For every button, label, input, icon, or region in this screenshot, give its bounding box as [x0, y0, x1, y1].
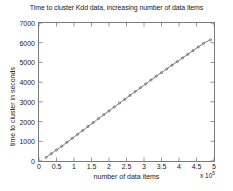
plot-area — [38, 22, 215, 162]
x-tick-label: 0.5 — [52, 163, 62, 170]
x-tick-label: 1 — [72, 163, 76, 170]
y-axis-tick-labels: 01000200030004000500060007000 — [0, 0, 35, 191]
y-tick-label: 5000 — [19, 59, 35, 66]
x-tick-label: 3.5 — [157, 163, 167, 170]
x-tick-label: 0 — [37, 163, 41, 170]
x-tick-label: 4 — [177, 163, 181, 170]
x-tick-label: 2 — [107, 163, 111, 170]
x-tick-label: 1.5 — [87, 163, 97, 170]
exponent-prefix: x 10 — [200, 172, 212, 179]
x-tick-label: 4.5 — [192, 163, 202, 170]
plot-svg — [39, 23, 214, 161]
y-tick-label: 6000 — [19, 39, 35, 46]
data-series-line — [46, 40, 211, 158]
y-tick-label: 3000 — [19, 98, 35, 105]
y-tick-label: 1000 — [19, 138, 35, 145]
y-tick-label: 0 — [31, 158, 35, 165]
x-tick-label: 2.5 — [122, 163, 132, 170]
y-axis-label: time to cluster in seconds — [9, 67, 16, 146]
x-tick-label: 5 — [212, 163, 216, 170]
y-tick-label: 7000 — [19, 20, 35, 27]
x-axis-exponent: x 105 — [200, 170, 215, 179]
y-tick-label: 2000 — [19, 118, 35, 125]
y-tick-label: 4000 — [19, 79, 35, 86]
x-tick-label: 3 — [142, 163, 146, 170]
exponent-power: 5 — [212, 170, 215, 176]
x-axis-label: number of data items — [38, 173, 215, 180]
figure-container: Time to cluster Kdd data, increasing num… — [0, 0, 233, 191]
